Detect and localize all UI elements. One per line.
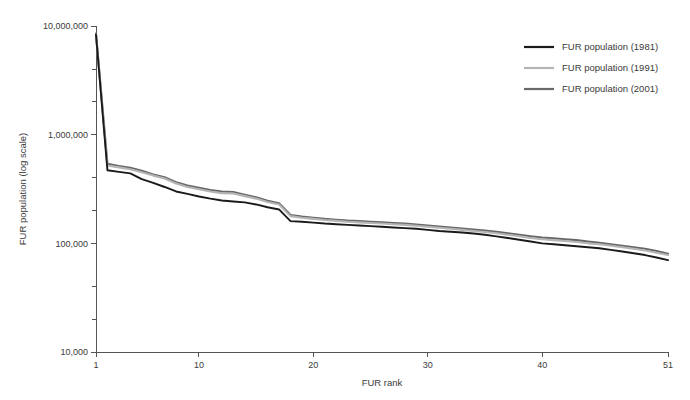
legend-label: FUR population (2001) bbox=[562, 83, 658, 94]
legend-label: FUR population (1991) bbox=[562, 62, 658, 73]
chart-legend: FUR population (1981)FUR population (199… bbox=[524, 41, 658, 94]
y-tick-label: 10,000 bbox=[60, 347, 88, 357]
x-tick-label: 30 bbox=[423, 360, 433, 370]
chart-container: 10,000100,0001,000,00010,000,000 FUR pop… bbox=[0, 0, 690, 400]
x-tick-label: 20 bbox=[308, 360, 318, 370]
x-axis-ticks: 11020304051 bbox=[93, 352, 673, 370]
y-tick-label: 10,000,000 bbox=[43, 21, 88, 31]
y-axis-ticks: 10,000100,0001,000,00010,000,000 bbox=[43, 21, 96, 357]
legend-label: FUR population (1981) bbox=[562, 41, 658, 52]
y-axis-group: 10,000100,0001,000,00010,000,000 FUR pop… bbox=[17, 21, 96, 357]
x-tick-label: 1 bbox=[93, 360, 98, 370]
x-tick-label: 51 bbox=[663, 360, 673, 370]
y-tick-label: 100,000 bbox=[55, 239, 88, 249]
x-axis-title: FUR rank bbox=[362, 377, 403, 388]
y-axis-minor-ticks bbox=[92, 69, 96, 319]
line-chart: 10,000100,0001,000,00010,000,000 FUR pop… bbox=[0, 0, 690, 400]
x-tick-label: 10 bbox=[194, 360, 204, 370]
y-tick-label: 1,000,000 bbox=[48, 130, 88, 140]
x-tick-label: 40 bbox=[537, 360, 547, 370]
y-axis-title: FUR population (log scale) bbox=[17, 133, 28, 245]
x-axis-group: 11020304051 FUR rank bbox=[93, 352, 673, 388]
